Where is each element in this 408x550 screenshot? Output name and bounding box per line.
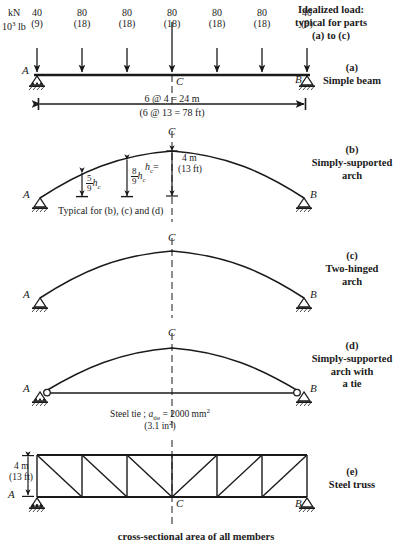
hinge-right [294, 389, 301, 396]
figure-canvas: kN 103 lb 40(9) 80(18) 80(18) 80(18) 80(… [0, 0, 408, 550]
node-label-a-arch-b: A [23, 189, 30, 201]
load-label-4: 80(18) [164, 8, 181, 29]
caption-b: (b) Simply-supported arch [312, 144, 393, 182]
steel-tie-label-imperial: (3.1 in2) [144, 420, 175, 432]
node-label-b-arch-b: B [310, 189, 317, 201]
unit-label-metric: kN [8, 8, 20, 19]
caption-d: (d) Simply-supported arch with a tie [312, 340, 393, 391]
rise-dimension [166, 151, 178, 196]
ordinate-label-5-9: 59hc [86, 174, 101, 193]
rise-value-imperial: (13 ft) [178, 165, 202, 175]
ordinate-label-8-9: 89hc [131, 167, 146, 186]
support-a-truss [29, 498, 45, 512]
load-label-3: 80(18) [119, 8, 136, 29]
node-label-a-truss: A [8, 489, 15, 501]
node-label-a-beam: A [22, 65, 29, 77]
load-arrows-beam [37, 22, 307, 72]
load-label-2: 80(18) [74, 8, 91, 29]
load-label-5: 80(18) [209, 8, 226, 29]
unit-label-imperial: 103 lb [2, 21, 26, 33]
load-label-1: 40(9) [31, 8, 43, 29]
caption-c: (c) Two-hinged arch [326, 250, 379, 288]
caption-e: (e) Steel truss [329, 466, 375, 492]
span-label-metric: 6 @ 4 = 24 m [144, 94, 199, 105]
truss-depth-imperial: (13 ft) [9, 473, 33, 483]
support-a-arch-b [32, 198, 48, 212]
rise-symbol-label: hc= [145, 162, 159, 175]
node-label-b-truss: B [295, 498, 302, 510]
span-label-imperial: (6 @ 13 = 78 ft) [139, 108, 204, 119]
node-label-c-arch-d: C [168, 327, 175, 339]
part-e-steel-truss [22, 440, 315, 528]
node-label-c-arch-c: C [168, 232, 175, 244]
load-label-6: 80(18) [254, 8, 271, 29]
node-label-a-arch-c: A [23, 289, 30, 301]
typical-note: Typical for (b), (c) and (d) [58, 206, 163, 217]
support-a-arch-c [32, 298, 48, 312]
support-a-beam [29, 76, 45, 90]
truss-depth-metric: 4 m [14, 462, 29, 472]
node-label-a-arch-d: A [23, 383, 30, 395]
rise-value-metric: 4 m [182, 154, 197, 164]
node-label-b-arch-c: B [310, 289, 317, 301]
node-label-c-beam: C [176, 76, 183, 88]
part-c-two-hinged-arch [32, 238, 312, 318]
node-label-c-arch-b: C [168, 126, 175, 138]
node-label-b-beam: B [295, 74, 302, 86]
caption-a: (a) Simple beam [323, 62, 381, 88]
node-label-c-truss: C [176, 498, 183, 510]
hinge-left [44, 389, 51, 396]
idealized-load-header: Idealized load: typical for parts (a) to… [295, 4, 367, 42]
footer-note: cross-sectional area of all members [118, 531, 275, 544]
